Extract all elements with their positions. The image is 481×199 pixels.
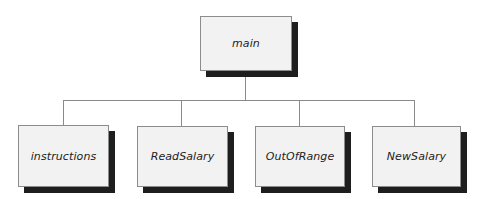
node-label: ReadSalary: [151, 150, 215, 163]
node-box: OutOfRange: [255, 126, 345, 187]
node-box: main: [200, 16, 292, 71]
node-label: instructions: [31, 150, 97, 163]
node-label: OutOfRange: [266, 150, 335, 163]
connector-readsalary: [181, 100, 182, 126]
connector-newsalary: [414, 100, 415, 126]
connector-outofrange: [299, 100, 300, 126]
node-box: instructions: [18, 125, 109, 187]
connector-instructions: [63, 100, 64, 125]
node-label: NewSalary: [387, 150, 446, 163]
horizontal-connector: [63, 100, 415, 101]
node-box: ReadSalary: [137, 126, 228, 187]
node-box: NewSalary: [372, 126, 461, 187]
node-label: main: [232, 37, 260, 50]
